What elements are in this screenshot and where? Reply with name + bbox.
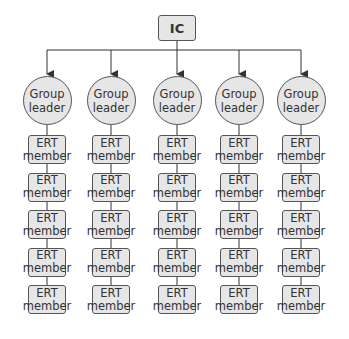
ert-member-node: ERT member xyxy=(220,210,258,239)
leader-label-line2: leader xyxy=(221,101,257,115)
member-label-line2: member xyxy=(215,300,264,313)
member-label-line2: member xyxy=(153,300,202,313)
leader-label-line1: Group xyxy=(93,87,128,101)
group-leader-node: Group leader xyxy=(215,76,264,125)
leader-label-line2: leader xyxy=(29,101,65,115)
member-label-line1: ERT xyxy=(36,137,57,150)
member-label-line2: member xyxy=(87,225,136,238)
ert-member-node: ERT member xyxy=(282,210,320,239)
ert-member-node: ERT member xyxy=(158,135,196,164)
member-label-line2: member xyxy=(277,225,326,238)
ic-label: IC xyxy=(170,22,184,35)
member-label-line2: member xyxy=(215,262,264,275)
member-label-line2: member xyxy=(87,150,136,163)
ert-member-node: ERT member xyxy=(28,135,66,164)
leader-label-line2: leader xyxy=(93,101,129,115)
member-label-line2: member xyxy=(87,300,136,313)
ert-member-node: ERT member xyxy=(282,135,320,164)
member-label-line2: member xyxy=(277,262,326,275)
ert-member-node: ERT member xyxy=(282,285,320,314)
leader-label-line1: Group xyxy=(29,87,64,101)
ert-member-node: ERT member xyxy=(282,173,320,202)
ert-member-node: ERT member xyxy=(282,248,320,277)
incident-commander-node: IC xyxy=(158,15,196,41)
leader-label-line1: Group xyxy=(159,87,194,101)
ert-member-node: ERT member xyxy=(28,248,66,277)
member-label-line1: ERT xyxy=(228,287,249,300)
member-label-line2: member xyxy=(215,187,264,200)
leader-label-line1: Group xyxy=(221,87,256,101)
group-leader-node: Group leader xyxy=(23,76,72,125)
member-label-line2: member xyxy=(23,225,72,238)
group-leader-node: Group leader xyxy=(153,76,202,125)
ert-member-node: ERT member xyxy=(220,285,258,314)
member-label-line1: ERT xyxy=(290,137,311,150)
ert-member-node: ERT member xyxy=(92,173,130,202)
group-leader-node: Group leader xyxy=(87,76,136,125)
leader-label-line1: Group xyxy=(283,87,318,101)
member-label-line2: member xyxy=(153,187,202,200)
ert-member-node: ERT member xyxy=(28,173,66,202)
leader-label-line2: leader xyxy=(283,101,319,115)
member-label-line1: ERT xyxy=(100,137,121,150)
member-label-line1: ERT xyxy=(290,212,311,225)
group-leader-node: Group leader xyxy=(277,76,326,125)
member-label-line2: member xyxy=(87,187,136,200)
member-label-line2: member xyxy=(277,150,326,163)
member-label-line1: ERT xyxy=(166,287,187,300)
member-label-line1: ERT xyxy=(290,287,311,300)
member-label-line2: member xyxy=(87,262,136,275)
ert-member-node: ERT member xyxy=(158,248,196,277)
member-label-line1: ERT xyxy=(228,212,249,225)
leader-label-line2: leader xyxy=(159,101,195,115)
member-label-line1: ERT xyxy=(100,212,121,225)
ert-member-node: ERT member xyxy=(28,210,66,239)
member-label-line1: ERT xyxy=(228,137,249,150)
member-label-line2: member xyxy=(277,300,326,313)
ert-member-node: ERT member xyxy=(220,248,258,277)
member-label-line1: ERT xyxy=(166,137,187,150)
member-label-line2: member xyxy=(277,187,326,200)
member-label-line1: ERT xyxy=(36,287,57,300)
ert-member-node: ERT member xyxy=(92,285,130,314)
ert-member-node: ERT member xyxy=(220,135,258,164)
ert-member-node: ERT member xyxy=(28,285,66,314)
member-label-line2: member xyxy=(153,150,202,163)
ert-member-node: ERT member xyxy=(92,210,130,239)
member-label-line2: member xyxy=(215,225,264,238)
member-label-line2: member xyxy=(153,225,202,238)
member-label-line2: member xyxy=(23,262,72,275)
member-label-line1: ERT xyxy=(36,212,57,225)
ert-member-node: ERT member xyxy=(92,135,130,164)
ert-member-node: ERT member xyxy=(158,210,196,239)
member-label-line2: member xyxy=(23,300,72,313)
member-label-line2: member xyxy=(215,150,264,163)
member-label-line2: member xyxy=(153,262,202,275)
ert-member-node: ERT member xyxy=(158,173,196,202)
member-label-line2: member xyxy=(23,187,72,200)
member-label-line1: ERT xyxy=(100,287,121,300)
member-label-line2: member xyxy=(23,150,72,163)
ert-member-node: ERT member xyxy=(92,248,130,277)
ert-member-node: ERT member xyxy=(220,173,258,202)
ert-member-node: ERT member xyxy=(158,285,196,314)
member-label-line1: ERT xyxy=(166,212,187,225)
